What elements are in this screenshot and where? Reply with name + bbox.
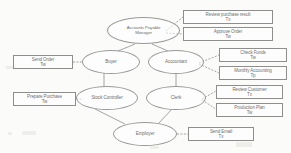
link-stock-controller-employer bbox=[95, 109, 125, 124]
scan-artifact bbox=[150, 146, 159, 149]
usecase-tag: Tx bbox=[206, 17, 251, 22]
actor-stock-controller[interactable]: Stock Controller bbox=[76, 86, 138, 110]
usecase-tag: Tx bbox=[232, 92, 266, 97]
usecase-send-order[interactable]: Send Order Tw bbox=[13, 55, 73, 69]
usecase-tag: Tp bbox=[234, 73, 271, 78]
usecase-tag: Tw bbox=[234, 110, 264, 115]
actor-label: Stock Controller bbox=[77, 95, 137, 100]
scan-artifact bbox=[8, 132, 12, 135]
usecase-monthly-accounting[interactable]: Monthly Accounting Tp bbox=[219, 66, 287, 80]
scan-artifact bbox=[22, 131, 36, 135]
link-clerk-employer bbox=[158, 109, 172, 124]
usecase-send-email[interactable]: Send Email Tx bbox=[188, 127, 254, 141]
usecase-check-funds[interactable]: Check Funds Tw bbox=[219, 48, 287, 62]
actor-label: Employer bbox=[114, 131, 176, 136]
usecase-tag: Tw bbox=[27, 99, 62, 104]
actor-clerk[interactable]: Clerk bbox=[146, 86, 206, 110]
usecase-review-customer[interactable]: Review Customer Tx bbox=[216, 85, 283, 99]
usecase-tag: Tw bbox=[214, 34, 242, 39]
actor-label: Accountant bbox=[149, 59, 203, 64]
usecase-approve-order[interactable]: Approve Order Tw bbox=[183, 27, 273, 41]
usecase-production-plan[interactable]: Production Plan Tw bbox=[216, 103, 283, 117]
actor-employer[interactable]: Employer bbox=[113, 122, 177, 146]
actor-label-line2: Manager bbox=[127, 31, 161, 36]
actor-accountant[interactable]: Accountant bbox=[148, 50, 204, 74]
scan-artifact bbox=[236, 142, 252, 147]
usecase-tag: Tx bbox=[210, 134, 232, 139]
usecase-review-purchase-result[interactable]: Review purchase result Tx bbox=[183, 10, 273, 24]
actor-accounts-payable-manager[interactable]: Accounts Payable Manager bbox=[107, 17, 180, 44]
actor-label: Buyer bbox=[83, 59, 139, 64]
actor-buyer[interactable]: Buyer bbox=[82, 50, 140, 74]
actor-label: Clerk bbox=[147, 95, 205, 100]
usecase-prepare-purchase[interactable]: Prepare Purchase Tw bbox=[13, 92, 76, 106]
usecase-tag: Tw bbox=[32, 62, 54, 67]
use-case-diagram-canvas: Accounts Payable Manager Buyer Accountan… bbox=[0, 0, 291, 153]
usecase-tag: Tw bbox=[240, 55, 266, 60]
